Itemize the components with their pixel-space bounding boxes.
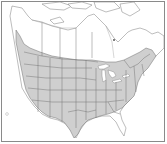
range-map [2,2,165,142]
coastal-mark [6,113,9,116]
map-frame [1,1,165,142]
location-marker [113,39,115,41]
